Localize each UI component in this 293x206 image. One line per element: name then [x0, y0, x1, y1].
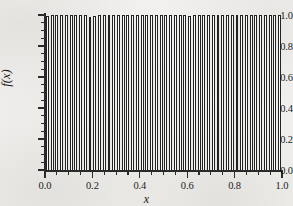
x-tick-minor: [210, 171, 211, 175]
x-tick-minor: [116, 171, 117, 175]
bar: [84, 15, 87, 170]
bar: [150, 15, 153, 170]
y-tick-minor: [41, 131, 45, 132]
x-tick-major: [44, 171, 45, 178]
bar: [179, 15, 182, 170]
x-tick-major: [234, 171, 235, 178]
bar: [70, 15, 73, 170]
bar: [60, 15, 63, 170]
bar: [145, 15, 148, 170]
figure-canvas: 0.00.20.40.60.81.0 0.00.20.40.60.81.0 f(…: [0, 0, 293, 206]
bar: [112, 15, 115, 170]
bar: [51, 15, 54, 170]
x-tick-minor: [127, 171, 128, 175]
x-tick-minor: [80, 171, 81, 175]
bar: [141, 15, 144, 170]
x-axis-title: x: [0, 192, 293, 206]
y-tick-major: [38, 107, 45, 108]
bar: [46, 16, 49, 170]
bar: [254, 15, 257, 170]
x-tick-minor: [222, 171, 223, 175]
y-tick-major: [38, 45, 45, 46]
x-tick-label: 0.8: [215, 180, 255, 191]
x-tick-minor: [175, 171, 176, 175]
bar: [98, 15, 101, 170]
y-tick-minor: [41, 30, 45, 31]
y-tick-label: 0.8: [259, 41, 293, 52]
bar: [136, 15, 139, 170]
x-tick-major: [92, 171, 93, 178]
y-tick-minor: [41, 22, 45, 23]
y-tick-label: 0.0: [259, 165, 293, 176]
y-tick-minor: [41, 162, 45, 163]
bar: [236, 15, 239, 170]
y-tick-minor: [41, 154, 45, 155]
bar: [226, 15, 229, 170]
bar: [131, 15, 134, 170]
y-tick-label: 0.4: [259, 103, 293, 114]
bar: [108, 15, 111, 170]
bar: [160, 15, 163, 170]
bar: [250, 15, 253, 170]
bar: [183, 15, 186, 170]
y-tick-label: 1.0: [259, 10, 293, 21]
y-tick-minor: [41, 92, 45, 93]
x-tick-label: 0.0: [25, 180, 65, 191]
bar: [207, 15, 210, 170]
bar: [89, 17, 92, 170]
bar: [79, 15, 82, 170]
bar: [212, 15, 215, 170]
bar: [117, 15, 120, 170]
y-tick-minor: [41, 123, 45, 124]
y-tick-label: 0.2: [259, 134, 293, 145]
x-tick-label: 0.4: [120, 180, 160, 191]
x-tick-minor: [246, 171, 247, 175]
bar: [93, 16, 96, 170]
bar: [169, 15, 172, 170]
bar: [259, 15, 262, 170]
x-tick-minor: [104, 171, 105, 175]
y-tick-minor: [41, 53, 45, 54]
y-tick-major: [38, 138, 45, 139]
bar: [122, 15, 125, 170]
x-tick-minor: [151, 171, 152, 175]
bar: [221, 15, 224, 170]
y-tick-major: [38, 14, 45, 15]
y-tick-minor: [41, 38, 45, 39]
x-tick-major: [187, 171, 188, 178]
bar: [245, 15, 248, 170]
y-tick-minor: [41, 69, 45, 70]
bar: [240, 15, 243, 170]
bar: [103, 15, 106, 170]
y-tick-minor: [41, 61, 45, 62]
bar: [193, 15, 196, 170]
bar: [126, 15, 129, 170]
bar: [174, 15, 177, 170]
x-tick-label: 1.0: [262, 180, 293, 191]
bar: [264, 15, 267, 170]
y-tick-minor: [41, 100, 45, 101]
x-tick-major: [139, 171, 140, 178]
bar: [74, 15, 77, 170]
y-axis-title: f(x): [0, 69, 14, 86]
bar: [273, 15, 276, 170]
bar: [202, 15, 205, 170]
y-tick-major: [38, 76, 45, 77]
bar: [217, 15, 220, 170]
x-tick-label: 0.2: [72, 180, 112, 191]
x-tick-label: 0.6: [167, 180, 207, 191]
y-tick-label: 0.6: [259, 72, 293, 83]
bar: [278, 15, 281, 170]
bar: [55, 15, 58, 170]
bar: [269, 15, 272, 170]
y-tick-minor: [41, 146, 45, 147]
bar: [65, 15, 68, 170]
bar-series: [45, 15, 282, 170]
x-tick-minor: [163, 171, 164, 175]
bar: [164, 15, 167, 170]
bar: [155, 15, 158, 170]
y-tick-minor: [41, 115, 45, 116]
bar: [198, 15, 201, 170]
bar: [188, 16, 191, 170]
x-tick-minor: [56, 171, 57, 175]
